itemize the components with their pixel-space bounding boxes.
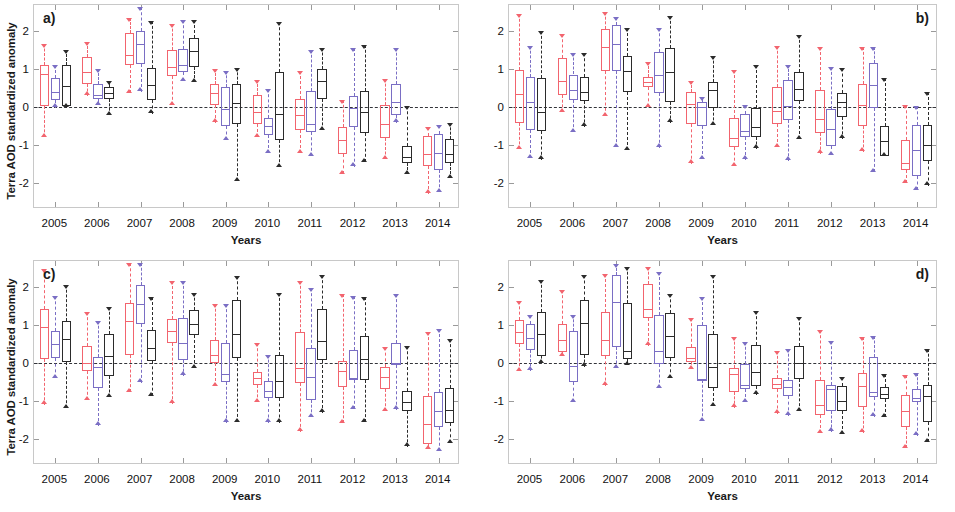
whisker-cap-top-icon xyxy=(859,47,865,51)
box-iqr xyxy=(815,380,825,415)
whisker-upper xyxy=(152,21,153,69)
whisker-cap-bottom-icon xyxy=(699,155,705,159)
whisker-upper xyxy=(605,274,606,313)
x-tick-mark xyxy=(702,261,703,266)
x-tick-mark xyxy=(439,202,440,207)
median-line xyxy=(306,377,316,378)
box-iqr xyxy=(654,52,664,93)
whisker-cap-bottom-icon xyxy=(436,447,442,451)
whisker-cap-bottom-icon xyxy=(581,362,587,366)
x-tick-label: 2007 xyxy=(127,217,153,229)
box-iqr xyxy=(317,69,327,99)
box-iqr xyxy=(569,331,579,382)
median-line xyxy=(580,92,590,93)
x-tick-label: 2006 xyxy=(560,217,586,229)
box-iqr xyxy=(275,355,285,397)
panel-c: Terra AOD standardized anomaly 210-1-2 c… xyxy=(0,256,477,512)
x-tick-label: 2008 xyxy=(169,217,195,229)
box-iqr xyxy=(253,95,263,124)
median-line xyxy=(794,363,804,364)
median-line xyxy=(697,107,707,108)
whisker-upper xyxy=(268,89,269,118)
whisker-cap-bottom-icon xyxy=(753,144,759,148)
box-iqr xyxy=(526,77,536,131)
median-line xyxy=(772,384,782,385)
whisker-cap-top-icon xyxy=(570,53,576,57)
x-tick-mark xyxy=(917,458,918,463)
median-line xyxy=(558,340,568,341)
whisker-upper xyxy=(734,70,735,117)
figure-boxplot-grid: Terra AOD standardized anomaly 210-1-2 a… xyxy=(0,0,955,512)
median-line xyxy=(210,93,220,94)
whisker-cap-top-icon xyxy=(870,336,876,340)
median-line xyxy=(82,72,92,73)
whisker-cap-bottom-icon xyxy=(212,382,218,386)
whisker-cap-top-icon xyxy=(656,28,662,32)
x-tick-mark xyxy=(659,5,660,10)
y-tick-mark xyxy=(931,69,936,70)
whisker-cap-bottom-icon xyxy=(624,146,630,150)
x-tick-label: 2006 xyxy=(560,473,586,485)
whisker-lower xyxy=(799,101,800,140)
whisker-cap-top-icon xyxy=(645,62,651,66)
y-tick-mark xyxy=(34,69,39,70)
whisker-cap-top-icon xyxy=(902,105,908,109)
box-iqr xyxy=(708,334,718,388)
plot-area-b: 210-1-2 xyxy=(508,4,937,208)
whisker-cap-bottom-icon xyxy=(436,188,442,192)
whisker-upper xyxy=(820,47,821,91)
whisker-lower xyxy=(702,380,703,421)
x-tick-label: 2009 xyxy=(212,473,238,485)
x-tick-mark xyxy=(573,261,574,266)
whisker-cap-top-icon xyxy=(276,293,282,297)
x-tick-label: 2010 xyxy=(255,473,281,485)
whisker-upper xyxy=(928,92,929,125)
whisker-cap-bottom-icon xyxy=(350,162,356,166)
x-tick-mark xyxy=(98,5,99,10)
x-tick-mark xyxy=(183,202,184,207)
whisker-cap-top-icon xyxy=(382,79,388,83)
median-line xyxy=(62,339,72,340)
box-iqr xyxy=(445,139,455,163)
x-tick-mark xyxy=(573,458,574,463)
median-line xyxy=(253,112,263,113)
whisker-cap-top-icon xyxy=(169,24,175,28)
whisker-upper xyxy=(311,288,312,348)
whisker-cap-top-icon xyxy=(817,330,823,334)
whisker-upper xyxy=(541,31,542,79)
box-iqr xyxy=(665,48,675,102)
whisker-cap-top-icon xyxy=(731,337,737,341)
whisker-cap-bottom-icon xyxy=(212,118,218,122)
x-tick-mark xyxy=(439,5,440,10)
x-tick-label: 2013 xyxy=(382,217,408,229)
whisker-cap-bottom-icon xyxy=(913,431,919,435)
whisker-cap-top-icon xyxy=(613,264,619,268)
whisker-upper xyxy=(885,78,886,126)
whisker-cap-bottom-icon xyxy=(106,111,112,115)
box-iqr xyxy=(349,96,359,127)
panel-a: Terra AOD standardized anomaly 210-1-2 a… xyxy=(0,0,477,256)
whisker-lower xyxy=(616,71,617,147)
whisker-cap-top-icon xyxy=(559,290,565,294)
y-tick-mark xyxy=(34,183,39,184)
box-iqr xyxy=(423,136,433,165)
whisker-cap-top-icon xyxy=(319,275,325,279)
whisker-cap-top-icon xyxy=(516,14,522,18)
whisker-cap-bottom-icon xyxy=(688,365,694,369)
whisker-upper xyxy=(300,71,301,99)
median-line xyxy=(423,154,433,155)
x-tick-label: 2014 xyxy=(425,473,451,485)
whisker-upper xyxy=(66,285,67,321)
whisker-upper xyxy=(627,267,628,303)
box-iqr xyxy=(643,284,653,319)
y-tick-label: -2 xyxy=(494,433,504,445)
median-line xyxy=(729,374,739,375)
x-tick-label: 2009 xyxy=(688,217,714,229)
x-tick-label: 2014 xyxy=(903,217,929,229)
median-line xyxy=(40,74,50,75)
x-tick-label: 2007 xyxy=(602,473,628,485)
whisker-cap-bottom-icon xyxy=(169,399,175,403)
median-line xyxy=(125,321,135,322)
whisker-upper xyxy=(396,294,397,342)
whisker-cap-top-icon xyxy=(667,16,673,20)
